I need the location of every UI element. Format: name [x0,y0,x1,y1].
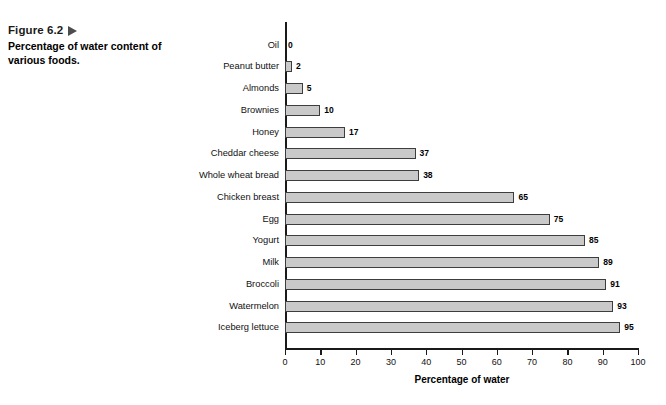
category-label: Egg [262,214,279,225]
x-axis-tick-label: 90 [598,357,608,367]
x-axis-tick-label: 10 [315,357,325,367]
bar-value-label: 10 [324,105,333,116]
bar-value-label: 85 [589,235,598,246]
bar [285,61,292,72]
bar-row: 75 [285,214,563,225]
x-axis-tick-label: 50 [456,357,466,367]
bar-row: 0 [285,40,293,51]
bar-row: 89 [285,257,613,268]
category-label: Almonds [243,83,279,94]
x-axis-tick-label: 0 [282,357,287,367]
bar [285,127,345,138]
bar-value-label: 37 [420,148,429,159]
bar [285,322,620,333]
category-label: Peanut butter [223,61,279,72]
x-axis-tick-mark [320,349,321,355]
bar-row: 17 [285,127,358,138]
category-label: Iceberg lettuce [218,322,279,333]
bar-row: 65 [285,192,528,203]
category-label: Honey [252,127,279,138]
bar-row: 10 [285,105,334,116]
x-axis-tick-mark [567,349,568,355]
x-axis-tick-mark [391,349,392,355]
bar [285,235,585,246]
x-axis-tick-mark [462,349,463,355]
x-axis-tick-mark [638,349,639,355]
bar [285,301,613,312]
category-label-group: OilPeanut butterAlmondsBrowniesHoneyChed… [80,22,279,348]
x-axis-tick-label: 20 [351,357,361,367]
bar-chart: OilPeanut butterAlmondsBrowniesHoneyChed… [0,0,666,405]
x-axis-tick-mark [532,349,533,355]
bar-value-label: 91 [610,279,619,290]
bar-value-label: 75 [554,214,563,225]
bar-value-label: 5 [307,83,312,94]
bar-value-label: 89 [603,257,612,268]
x-axis-tick-mark [603,349,604,355]
x-axis-tick-mark [497,349,498,355]
x-axis-tick-label: 40 [421,357,431,367]
category-label: Milk [262,257,279,268]
bar-row: 85 [285,235,599,246]
bar-value-label: 65 [518,192,527,203]
category-label: Broccoli [246,279,279,290]
x-axis-tick-mark [426,349,427,355]
bar [285,105,320,116]
category-label: Oil [268,40,279,51]
x-axis-tick-label: 30 [386,357,396,367]
bar-value-label: 95 [624,322,633,333]
bar-value-label: 38 [423,170,432,181]
bar-row: 2 [285,61,301,72]
x-axis-title: Percentage of water [285,374,639,385]
category-label: Whole wheat bread [199,170,279,181]
bar [285,148,416,159]
bar-row: 5 [285,83,311,94]
plot-area: 0251017373865758589919395 [285,22,638,348]
bar [285,214,550,225]
x-axis-tick-mark [285,349,286,355]
category-label: Watermelon [229,301,279,312]
bar-row: 38 [285,170,433,181]
x-axis-tick-label: 80 [562,357,572,367]
bar-value-label: 2 [296,61,301,72]
bar-value-label: 93 [617,301,626,312]
bar [285,192,514,203]
bar-row: 93 [285,301,627,312]
category-label: Brownies [241,105,279,116]
bar [285,257,599,268]
bar [285,83,303,94]
x-axis-tick-mark [356,349,357,355]
category-label: Yogurt [252,235,279,246]
bar-value-label: 0 [288,40,293,51]
bar [285,170,419,181]
bar-value-label: 17 [349,127,358,138]
bar [285,279,606,290]
category-label: Chicken breast [217,192,279,203]
bar-row: 95 [285,322,634,333]
x-axis-tick-label: 70 [527,357,537,367]
category-label: Cheddar cheese [211,148,279,159]
bar-row: 37 [285,148,429,159]
x-axis-tick-label: 100 [630,357,645,367]
x-axis-tick-label: 60 [492,357,502,367]
bar-row: 91 [285,279,620,290]
